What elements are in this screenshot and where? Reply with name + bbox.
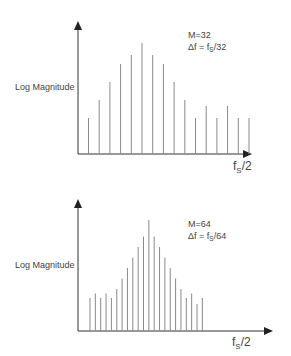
bottom-x-axis-arrow-icon xyxy=(264,327,273,335)
top-x-axis-arrow-icon xyxy=(243,150,252,158)
bottom-bars xyxy=(90,220,202,331)
diagram-canvas: Log Magnitude M=32 Δf = fS/32 fS/2 Log M… xyxy=(0,0,291,356)
top-delta-f-label: Δf = fS/32 xyxy=(188,42,226,53)
top-m-label: M=32 xyxy=(188,30,211,40)
bottom-m-label: M=64 xyxy=(188,219,211,229)
bottom-delta-f-label: Δf = fS/64 xyxy=(188,231,226,242)
top-ylabel: Log Magnitude xyxy=(15,82,75,92)
top-y-axis-arrow-icon xyxy=(74,21,82,30)
bottom-xlabel: fS/2 xyxy=(232,335,251,351)
top-bars xyxy=(89,43,250,154)
top-xlabel: fS/2 xyxy=(233,159,252,175)
bottom-ylabel: Log Magnitude xyxy=(15,260,75,270)
bottom-chart: Log Magnitude M=64 Δf = fS/64 fS/2 xyxy=(15,199,273,351)
top-chart: Log Magnitude M=32 Δf = fS/32 fS/2 xyxy=(15,21,252,175)
bottom-y-axis-arrow-icon xyxy=(74,199,82,208)
